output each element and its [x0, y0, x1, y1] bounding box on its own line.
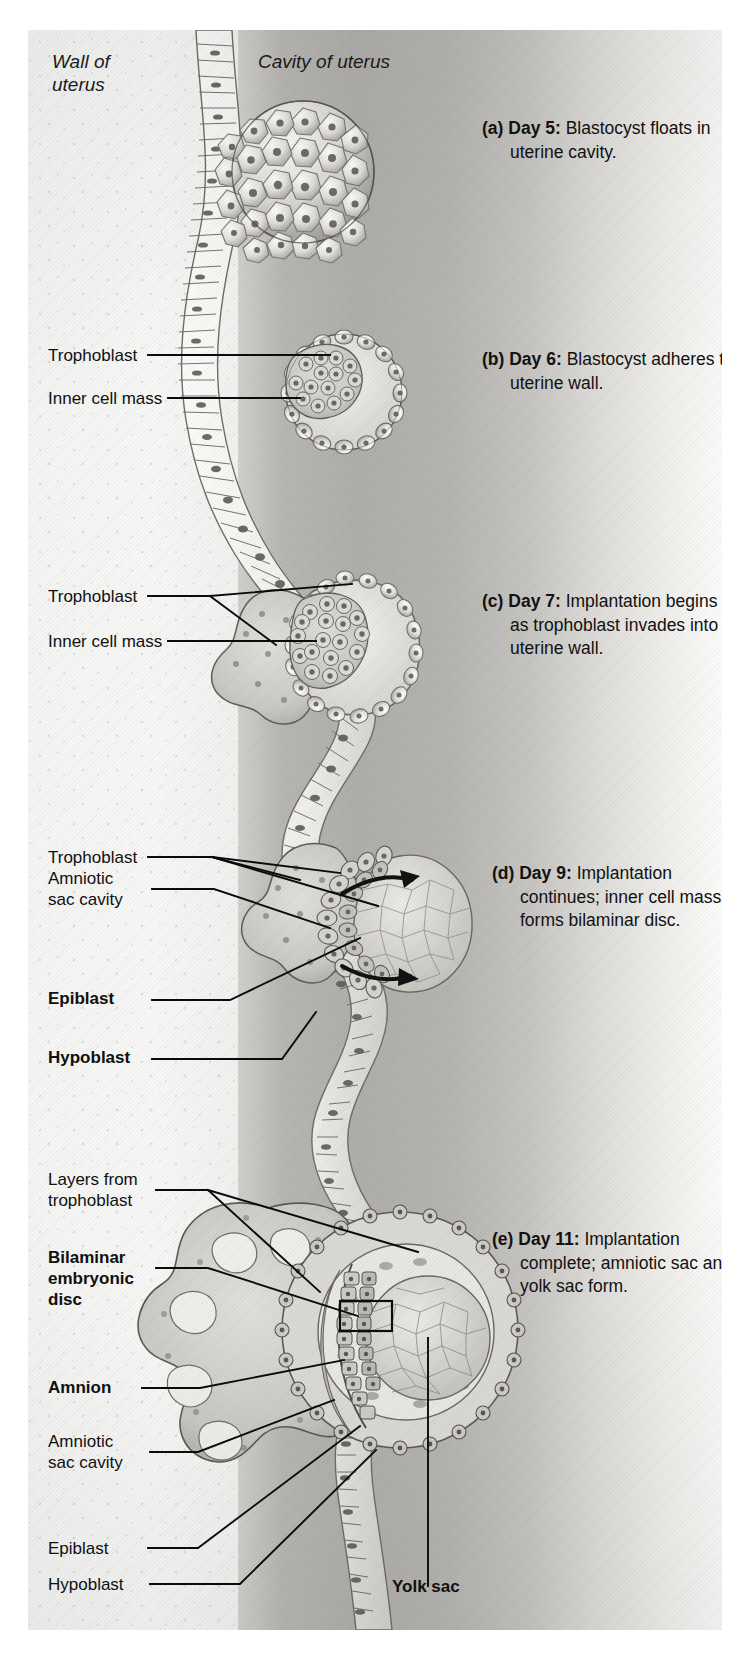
label-trophoblast-day9: Trophoblast [48, 847, 137, 868]
caption-b-marker: (b) [482, 349, 504, 369]
caption-e-marker: (e) [492, 1229, 513, 1249]
label-hypoblast-day9: Hypoblast [48, 1047, 130, 1068]
caption-c-marker: (c) [482, 591, 503, 611]
caption-panel-d: (d) Day 9: Implantation continues; inner… [492, 862, 745, 933]
caption-a-marker: (a) [482, 118, 503, 138]
label-inner-cell-mass-day7: Inner cell mass [48, 631, 162, 652]
header-wall-of-uterus: Wall of uterus [52, 50, 110, 96]
label-amnion-day11: Amnion [48, 1377, 111, 1398]
caption-e-day: Day 11: [518, 1229, 579, 1249]
caption-a-day: Day 5: [508, 118, 561, 138]
label-epiblast-day9: Epiblast [48, 988, 114, 1009]
blastocyst-day9 [242, 844, 472, 1000]
caption-panel-e: (e) Day 11: Implantation complete; amnio… [492, 1228, 745, 1299]
blastocyst-day11 [138, 1203, 525, 1462]
caption-c-day: Day 7: [508, 591, 561, 611]
label-yolk-sac-day11: Yolk sac [392, 1576, 460, 1597]
implantation-figure: Wall of uterus Cavity of uterus (a) Day … [0, 0, 750, 1677]
label-epiblast-day11: Epiblast [48, 1538, 108, 1559]
label-bilaminar-embryonic-disc-day11: Bilaminar embryonic disc [48, 1247, 134, 1310]
header-cavity-of-uterus: Cavity of uterus [258, 50, 390, 73]
label-amniotic-sac-cavity-day9: Amniotic sac cavity [48, 868, 123, 910]
illustration-artwork [0, 0, 750, 1677]
label-trophoblast-day7: Trophoblast [48, 586, 137, 607]
blastocyst-day6 [281, 330, 407, 454]
caption-panel-b: (b) Day 6: Blastocyst adheres to uterine… [482, 348, 735, 395]
left-margin [0, 0, 28, 1677]
caption-panel-c: (c) Day 7: Implantation begins as tropho… [482, 590, 735, 661]
label-trophoblast-day6: Trophoblast [48, 345, 137, 366]
right-margin [722, 0, 750, 1677]
top-margin [0, 0, 750, 30]
caption-b-day: Day 6: [509, 349, 562, 369]
caption-d-day: Day 9: [519, 863, 572, 883]
caption-d-marker: (d) [492, 863, 514, 883]
label-hypoblast-day11: Hypoblast [48, 1574, 124, 1595]
caption-panel-a: (a) Day 5: Blastocyst floats in uterine … [482, 117, 735, 164]
bottom-margin [0, 1630, 750, 1677]
label-amniotic-sac-cavity-day11: Amniotic sac cavity [48, 1431, 123, 1473]
label-layers-from-trophoblast-day11: Layers from trophoblast [48, 1169, 138, 1211]
label-inner-cell-mass-day6: Inner cell mass [48, 388, 162, 409]
